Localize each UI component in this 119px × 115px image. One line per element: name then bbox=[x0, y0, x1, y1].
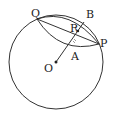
label-a: A bbox=[70, 50, 80, 63]
label-b: B bbox=[86, 8, 94, 21]
label-p: P bbox=[100, 37, 108, 50]
label-r: R bbox=[70, 22, 79, 35]
tick-marks bbox=[73, 39, 76, 43]
geometry-diagram: Q B R P A O bbox=[0, 0, 119, 115]
label-q: Q bbox=[31, 7, 40, 20]
label-o: O bbox=[44, 62, 53, 75]
center-point-o bbox=[55, 61, 58, 64]
